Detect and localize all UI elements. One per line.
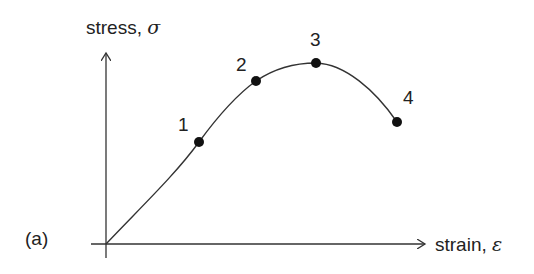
stress-strain-curve — [106, 63, 397, 244]
point-2-marker — [251, 76, 261, 86]
point-1-label: 1 — [178, 114, 189, 135]
point-3-label: 3 — [310, 29, 321, 50]
x-axis-label: strain, ε — [435, 233, 502, 255]
point-4-label: 4 — [403, 87, 414, 108]
point-4-marker — [392, 117, 402, 127]
point-2-label: 2 — [236, 54, 247, 75]
y-axis-label: stress, σ — [86, 16, 161, 38]
x-axis-label-text: strain, — [435, 234, 492, 255]
point-1-marker — [194, 137, 204, 147]
sigma-symbol: σ — [147, 16, 161, 38]
point-3-marker — [311, 58, 321, 68]
y-axis-label-text: stress, — [86, 17, 147, 38]
epsilon-symbol: ε — [492, 233, 502, 255]
stress-strain-diagram: 1 2 3 4 stress, σ strain, ε (a) — [0, 0, 534, 274]
panel-label: (a) — [25, 228, 48, 249]
